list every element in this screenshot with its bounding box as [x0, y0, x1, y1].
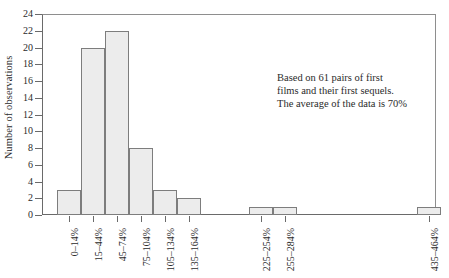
histogram-bar	[249, 207, 273, 215]
x-axis-tick-label: 0–14%	[62, 226, 76, 278]
x-axis-tick	[141, 216, 142, 222]
x-axis-tick	[165, 216, 166, 222]
histogram-chart: Number of observations 24222018161412108…	[0, 0, 449, 278]
x-axis-tick-label-text: 0–14%	[69, 228, 81, 256]
x-axis-tick-label-text: 255–284%	[285, 228, 297, 271]
x-axis-tick	[261, 216, 262, 222]
x-axis-tick-label-text: 225–254%	[261, 228, 273, 271]
histogram-bar	[129, 148, 153, 215]
x-axis-tick-label-text: 75–104%	[141, 228, 153, 266]
x-axis-tick-label: 105–134%	[158, 226, 172, 278]
x-axis-tick-label: 435–464%	[422, 226, 436, 278]
annotation-note: Based on 61 pairs of first films and the…	[277, 71, 437, 111]
x-axis-tick-label-text: 15–44%	[93, 228, 105, 261]
x-axis-tick-label-text: 105–134%	[165, 228, 177, 271]
x-axis-tick-label-text: 135–164%	[189, 228, 201, 271]
x-axis-tick-label: 135–164%	[182, 226, 196, 278]
x-axis-tick-label: 255–284%	[278, 226, 292, 278]
x-axis-tick-label-text: 435–464%	[429, 228, 441, 271]
x-axis-tick-label-text: 45–74%	[117, 228, 129, 261]
histogram-bar	[57, 190, 81, 215]
x-axis-tick	[117, 216, 118, 222]
annotation-line-3: The average of the data is 70%	[277, 97, 437, 110]
x-axis-tick-label: 225–254%	[254, 226, 268, 278]
histogram-bar	[81, 48, 105, 216]
histogram-bar	[417, 207, 441, 215]
x-axis-tick-label: 45–74%	[110, 226, 124, 278]
histogram-bar	[153, 190, 177, 215]
annotation-line-1: Based on 61 pairs of first	[277, 71, 437, 84]
histogram-bar	[273, 207, 297, 215]
x-axis-tick	[189, 216, 190, 222]
x-axis-tick	[69, 216, 70, 222]
x-axis-tick-label: 15–44%	[86, 226, 100, 278]
x-axis-tick-label: 75–104%	[134, 226, 148, 278]
annotation-line-2: films and their first sequels.	[277, 84, 437, 97]
x-axis-tick	[285, 216, 286, 222]
x-axis-tick	[429, 216, 430, 222]
histogram-bar	[177, 198, 201, 215]
histogram-bar	[105, 31, 129, 215]
x-axis-tick	[93, 216, 94, 222]
